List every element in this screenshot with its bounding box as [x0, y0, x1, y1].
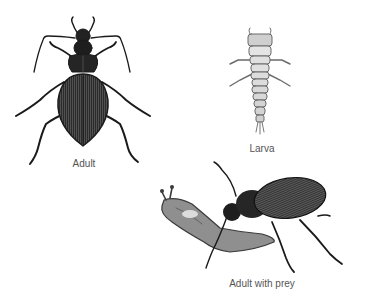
- adult-with-prey-figure: [160, 162, 342, 272]
- larva-figure: [230, 28, 290, 134]
- illustration-canvas: Adult Larva: [0, 0, 365, 297]
- adult-with-prey-label: Adult with prey: [229, 278, 295, 289]
- larva-label: Larva: [249, 143, 274, 154]
- adult-beetle-figure: [16, 17, 150, 164]
- adult-label: Adult: [73, 158, 96, 169]
